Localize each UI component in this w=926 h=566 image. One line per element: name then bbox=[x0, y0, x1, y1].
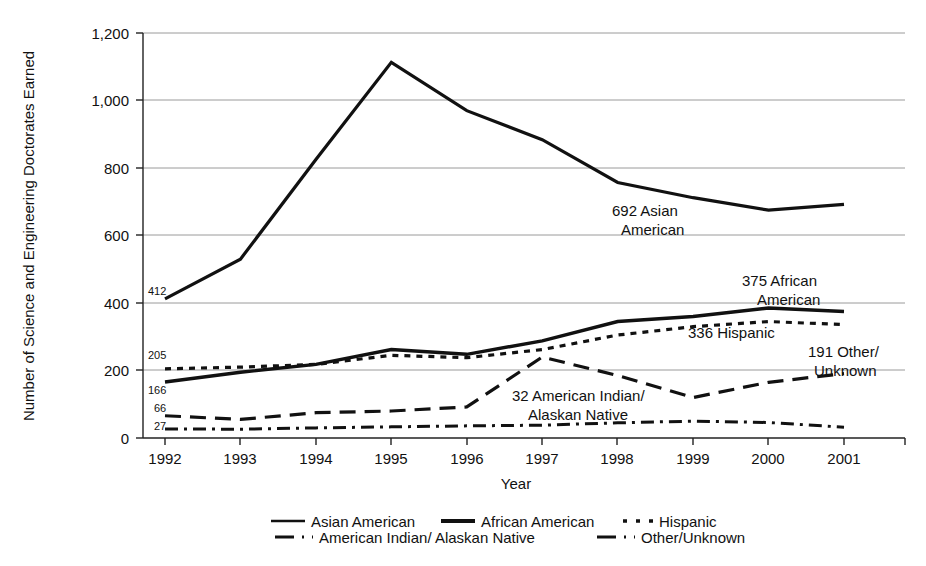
x-tick-label-1996: 1996 bbox=[450, 450, 483, 467]
x-tick-label-1993: 1993 bbox=[223, 450, 256, 467]
annotation-other-line2: Unknown bbox=[814, 362, 877, 379]
annotation-indian-line2: Alaskan Native bbox=[528, 406, 628, 423]
chart-container: 1,200 1,000 800 600 400 200 0 1992 1993 … bbox=[0, 0, 926, 566]
x-tick-label-1994: 1994 bbox=[299, 450, 332, 467]
start-label-hispanic: 205 bbox=[148, 349, 166, 361]
x-tick-label-1995: 1995 bbox=[374, 450, 407, 467]
annotation-indian-line1: 32 American Indian/ bbox=[512, 387, 645, 404]
y-tick-label-400: 400 bbox=[104, 295, 129, 312]
annotation-hispanic-line1: 336 Hispanic bbox=[688, 324, 775, 341]
y-tick-labels: 1,200 1,000 800 600 400 200 0 bbox=[91, 25, 129, 447]
x-tick-label-2000: 2000 bbox=[751, 450, 784, 467]
gridlines bbox=[143, 33, 905, 370]
legend-label-asian-american[interactable]: Asian American bbox=[311, 513, 415, 530]
start-label-indian: 27 bbox=[154, 420, 166, 432]
series-line-asian-american bbox=[165, 62, 844, 299]
axes bbox=[136, 33, 905, 445]
y-tick-label-800: 800 bbox=[104, 160, 129, 177]
legend-label-american-indian[interactable]: American Indian/ Alaskan Native bbox=[319, 529, 535, 546]
annotation-african-line2: American bbox=[757, 291, 820, 308]
y-tick-label-1200: 1,200 bbox=[91, 25, 129, 42]
x-axis-title: Year bbox=[501, 475, 531, 492]
annotation-asian-line1: 692 Asian bbox=[612, 202, 678, 219]
start-label-african: 166 bbox=[148, 384, 166, 396]
y-axis-title: Number of Science and Engineering Doctor… bbox=[20, 51, 37, 421]
y-tick-label-0: 0 bbox=[121, 430, 129, 447]
legend-label-hispanic[interactable]: Hispanic bbox=[659, 513, 717, 530]
start-value-labels: 412 205 166 66 27 bbox=[148, 285, 166, 432]
y-tick-label-1000: 1,000 bbox=[91, 92, 129, 109]
start-label-asian: 412 bbox=[148, 285, 166, 297]
x-tick-label-1997: 1997 bbox=[525, 450, 558, 467]
annotation-african-line1: 375 African bbox=[742, 272, 817, 289]
series-line-american-indian bbox=[165, 421, 844, 429]
y-tick-label-600: 600 bbox=[104, 227, 129, 244]
x-tick-label-1999: 1999 bbox=[676, 450, 709, 467]
legend-label-african-american[interactable]: African American bbox=[481, 513, 594, 530]
legend: Asian American African American Hispanic… bbox=[271, 513, 745, 546]
series-group bbox=[165, 62, 844, 429]
start-label-other: 66 bbox=[154, 402, 166, 414]
y-tick-label-200: 200 bbox=[104, 362, 129, 379]
x-tick-label-1998: 1998 bbox=[600, 450, 633, 467]
legend-label-other-unknown[interactable]: Other/Unknown bbox=[641, 529, 745, 546]
line-chart: 1,200 1,000 800 600 400 200 0 1992 1993 … bbox=[0, 0, 926, 566]
series-line-african-american bbox=[165, 308, 844, 382]
x-tick-label-1992: 1992 bbox=[148, 450, 181, 467]
annotation-asian-line2: American bbox=[621, 221, 684, 238]
x-tick-labels: 1992 1993 1994 1995 1996 1997 1998 1999 … bbox=[148, 450, 860, 467]
x-tick-label-2001: 2001 bbox=[827, 450, 860, 467]
annotation-other-line1: 191 Other/ bbox=[808, 343, 880, 360]
